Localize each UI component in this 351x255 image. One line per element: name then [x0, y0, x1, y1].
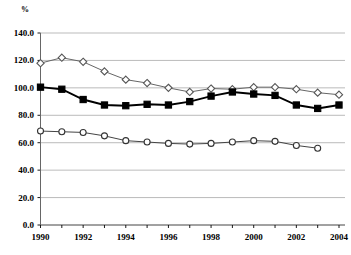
- data-point-marker: [37, 84, 43, 90]
- y-axis-tick-label: 80.0: [2, 110, 34, 120]
- x-axis-tick-label: 1992: [66, 232, 100, 242]
- y-axis-tick-label: 20.0: [2, 193, 34, 203]
- y-axis-tick-label: 60.0: [2, 138, 34, 148]
- data-point-marker: [251, 138, 257, 144]
- x-axis-tick-label: 2000: [237, 232, 271, 242]
- data-point-marker: [207, 85, 214, 92]
- data-point-marker: [187, 98, 193, 104]
- y-axis-tick-label: 140.0: [2, 28, 34, 38]
- data-point-marker: [165, 140, 171, 146]
- data-point-marker: [272, 92, 278, 98]
- data-point-marker: [38, 128, 44, 134]
- y-axis-tick-label: 0.0: [2, 220, 34, 230]
- x-axis-tick-label: 1996: [151, 232, 185, 242]
- data-point-marker: [80, 58, 87, 65]
- data-point-marker: [144, 79, 151, 86]
- data-point-marker: [336, 102, 342, 108]
- y-axis-tick-label: 40.0: [2, 165, 34, 175]
- data-point-marker: [208, 93, 214, 99]
- data-point-marker: [251, 91, 257, 97]
- x-axis-tick-label: 1994: [109, 232, 143, 242]
- data-point-marker: [293, 86, 300, 93]
- line-chart-plot: [0, 0, 351, 255]
- series-open-circle: [38, 128, 321, 151]
- data-point-marker: [144, 101, 150, 107]
- data-point-marker: [59, 129, 65, 135]
- y-axis-tick-label: 120.0: [2, 55, 34, 65]
- x-axis-tick-label: 2004: [322, 232, 351, 242]
- data-point-marker: [250, 84, 257, 91]
- data-point-marker: [293, 102, 299, 108]
- x-axis-tick-label: 1998: [194, 232, 228, 242]
- data-point-marker: [59, 86, 65, 92]
- x-axis-tick-label: 2002: [279, 232, 313, 242]
- data-point-marker: [186, 88, 193, 95]
- data-point-marker: [314, 89, 321, 96]
- data-point-marker: [165, 102, 171, 108]
- data-point-marker: [123, 103, 129, 109]
- x-axis-tick-label: 1990: [24, 232, 58, 242]
- data-point-marker: [101, 102, 107, 108]
- data-point-marker: [80, 96, 86, 102]
- data-point-marker: [101, 133, 107, 139]
- data-point-marker: [123, 138, 129, 144]
- data-point-marker: [101, 68, 108, 75]
- y-axis-tick-label: 100.0: [2, 83, 34, 93]
- data-point-marker: [208, 140, 214, 146]
- data-point-marker: [122, 76, 129, 83]
- data-point-marker: [80, 129, 86, 135]
- data-series-group: [37, 54, 343, 151]
- data-point-marker: [144, 139, 150, 145]
- data-point-marker: [165, 84, 172, 91]
- data-point-marker: [187, 141, 193, 147]
- data-point-marker: [229, 139, 235, 145]
- data-point-marker: [272, 138, 278, 144]
- data-point-marker: [293, 142, 299, 148]
- chart-container: % 0.020.040.060.080.0100.0120.0140.0 199…: [0, 0, 351, 255]
- data-point-marker: [271, 84, 278, 91]
- data-point-marker: [315, 105, 321, 111]
- data-point-marker: [229, 89, 235, 95]
- data-point-marker: [315, 145, 321, 151]
- data-point-marker: [335, 91, 342, 98]
